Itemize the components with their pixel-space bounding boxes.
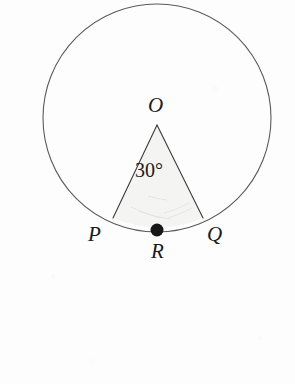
diagram-canvas: O 30° P Q R: [0, 0, 295, 384]
point-label-q: Q: [207, 224, 222, 245]
angle-label-30-degrees: 30°: [135, 160, 163, 180]
point-label-o: O: [148, 95, 163, 116]
point-label-r: R: [151, 241, 164, 262]
point-r-dot: [151, 224, 164, 237]
point-label-p: P: [88, 224, 101, 245]
geometry-figure: [0, 0, 295, 384]
